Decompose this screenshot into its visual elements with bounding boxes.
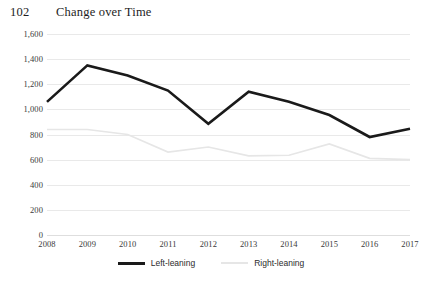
line-chart: 02004006008001,0001,2001,4001,600 200820… (0, 26, 422, 282)
y-axis-labels: 02004006008001,0001,2001,4001,600 (0, 34, 43, 235)
page-header: 102 Change over Time (0, 0, 422, 26)
y-axis-tick-label: 200 (30, 205, 43, 215)
legend-label-left-leaning: Left-leaning (151, 258, 195, 268)
series-line-right-leaning (47, 129, 410, 159)
page-title: Change over Time (56, 5, 152, 20)
y-axis-tick-label: 400 (30, 180, 43, 190)
legend-item-right-leaning: Right-leaning (221, 258, 304, 268)
y-axis-tick-label: 1,600 (23, 29, 43, 39)
y-axis-tick-label: 600 (30, 155, 43, 165)
x-axis-tick-label: 2011 (159, 239, 176, 249)
x-axis-tick-label: 2009 (79, 239, 96, 249)
x-axis-tick-label: 2016 (361, 239, 378, 249)
x-axis-tick-label: 2014 (280, 239, 297, 249)
y-axis-tick-label: 800 (30, 130, 43, 140)
series-line-left-leaning (47, 65, 410, 137)
plot-area (47, 34, 410, 235)
y-axis-tick-label: 1,000 (23, 104, 43, 114)
series-layer (47, 34, 410, 235)
chart-legend: Left-leaning Right-leaning (0, 258, 422, 268)
page-number: 102 (10, 5, 29, 20)
y-axis-tick-label: 1,200 (23, 79, 43, 89)
legend-label-right-leaning: Right-leaning (254, 258, 304, 268)
gridline (47, 235, 410, 236)
x-axis-tick-label: 2015 (321, 239, 338, 249)
legend-item-left-leaning: Left-leaning (118, 258, 195, 268)
x-axis-tick-label: 2017 (401, 239, 418, 249)
x-axis-labels: 2008200920102011201220132014201520162017 (47, 239, 410, 255)
x-axis-tick-label: 2013 (240, 239, 257, 249)
x-axis-tick-label: 2010 (119, 239, 136, 249)
x-axis-tick-label: 2012 (200, 239, 217, 249)
legend-swatch-right-leaning (221, 262, 248, 264)
x-axis-tick-label: 2008 (38, 239, 55, 249)
legend-swatch-left-leaning (118, 262, 145, 265)
y-axis-tick-label: 1,400 (23, 54, 43, 64)
